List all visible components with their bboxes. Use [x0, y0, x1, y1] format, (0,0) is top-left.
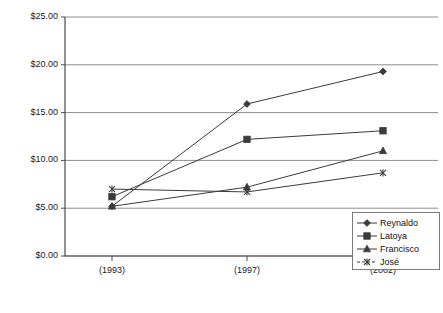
square-marker-icon: [364, 232, 370, 238]
y-axis-tick-label: $0.00: [10, 250, 58, 260]
y-axis-tick-label: $15.00: [10, 107, 58, 117]
square-marker-icon: [380, 128, 386, 134]
x-axis-tick-label: (1997): [212, 265, 282, 275]
legend-label: Francisco: [378, 243, 419, 255]
legend-item-reynaldo[interactable]: Reynaldo: [356, 216, 437, 229]
legend-label: Latoya: [378, 230, 407, 242]
triangle-marker-icon: [379, 147, 386, 154]
legend-item-latoya[interactable]: Latoya: [356, 229, 437, 242]
square-marker-icon: [244, 136, 250, 142]
y-axis-tick-label: $25.00: [10, 11, 58, 21]
diamond-marker-icon: [380, 68, 387, 75]
series-josé: [109, 169, 386, 195]
legend-label: Reynaldo: [378, 217, 418, 229]
square-marker-icon: [356, 230, 378, 242]
square-marker-icon: [109, 194, 115, 200]
triangle-marker-icon: [356, 243, 378, 255]
diamond-marker-icon: [364, 219, 371, 226]
x-axis-tick-label: (1993): [77, 265, 147, 275]
legend-label: José: [378, 256, 399, 268]
diamond-marker-icon: [356, 217, 378, 229]
legend-item-josé[interactable]: José: [356, 255, 437, 268]
y-axis-tick-label: $5.00: [10, 202, 58, 212]
y-axis-tick-label: $20.00: [10, 59, 58, 69]
x-marker-icon: [356, 256, 378, 268]
chart-legend: ReynaldoLatoyaFranciscoJosé: [352, 212, 440, 270]
line-chart: $25.00$20.00$15.00$10.00$5.00$0.00 (1993…: [0, 0, 443, 313]
legend-item-francisco[interactable]: Francisco: [356, 242, 437, 255]
y-axis-tick-label: $10.00: [10, 154, 58, 164]
